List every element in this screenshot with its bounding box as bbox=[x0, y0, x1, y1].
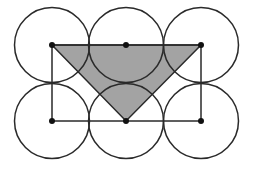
center-dot-top-right bbox=[198, 42, 204, 48]
circles-triangle-diagram bbox=[0, 0, 254, 171]
center-dot-top-left bbox=[49, 42, 55, 48]
center-dot-bottom-right bbox=[198, 118, 204, 124]
center-dot-top-middle bbox=[123, 42, 129, 48]
center-dot-bottom-left bbox=[49, 118, 55, 124]
center-dot-bottom-middle bbox=[123, 118, 129, 124]
